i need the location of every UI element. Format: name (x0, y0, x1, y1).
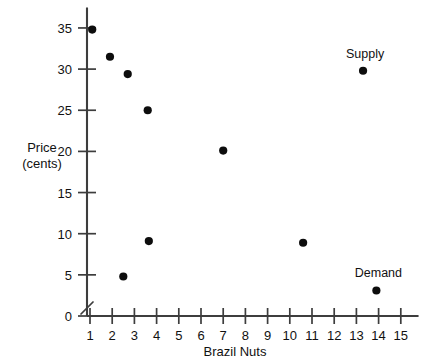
x-tick-label: 5 (175, 328, 182, 343)
x-tick-label: 10 (283, 328, 297, 343)
point-annotations: SupplyDemand (346, 47, 402, 281)
y-tick-label: 30 (58, 62, 72, 77)
x-axis-ticks: 123456789101112131415 (86, 308, 408, 343)
x-tick-label: 1 (86, 328, 93, 343)
y-tick-label: 5 (65, 268, 72, 283)
chart-canvas: 05101520253035 123456789101112131415 Sup… (0, 0, 429, 364)
x-tick-label: 3 (131, 328, 138, 343)
x-tick-label: 14 (371, 328, 385, 343)
data-point (372, 286, 380, 294)
data-point (219, 146, 227, 154)
x-tick-label: 2 (109, 328, 116, 343)
y-tick-label: 15 (58, 186, 72, 201)
x-axis-title: Brazil Nuts (204, 344, 267, 359)
data-point (299, 239, 307, 247)
data-point (119, 272, 127, 280)
y-tick-label: 0 (65, 309, 72, 324)
y-axis-title-line1: Price (27, 140, 57, 155)
scatter-chart: 05101520253035 123456789101112131415 Sup… (0, 0, 429, 364)
point-label-supply: Supply (346, 47, 385, 61)
data-points (88, 25, 380, 294)
data-point (124, 70, 132, 78)
x-tick-label: 4 (153, 328, 160, 343)
x-tick-label: 6 (197, 328, 204, 343)
data-point (145, 237, 153, 245)
y-tick-label: 25 (58, 103, 72, 118)
x-tick-label: 13 (349, 328, 363, 343)
x-tick-label: 15 (394, 328, 408, 343)
y-axis-ticks: 05101520253035 (58, 21, 96, 324)
x-axis: 123456789101112131415 (86, 308, 418, 343)
point-label-demand: Demand (355, 266, 402, 280)
data-point (144, 106, 152, 114)
data-point (106, 53, 114, 61)
x-tick-label: 7 (220, 328, 227, 343)
x-tick-label: 8 (242, 328, 249, 343)
y-axis: 05101520253035 (58, 7, 96, 324)
data-point (88, 25, 96, 33)
data-point (359, 67, 367, 75)
x-tick-label: 9 (264, 328, 271, 343)
y-tick-label: 35 (58, 21, 72, 36)
y-axis-title-line2: (cents) (22, 156, 62, 171)
x-tick-label: 11 (305, 328, 319, 343)
y-tick-label: 10 (58, 227, 72, 242)
x-tick-label: 12 (327, 328, 341, 343)
